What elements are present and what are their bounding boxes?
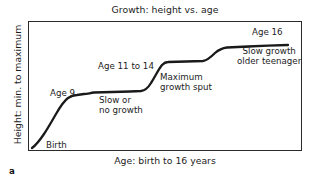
annotation-age-11-to-14: Age 11 to 14 <box>98 61 154 71</box>
figure-letter-label: a <box>9 166 15 176</box>
growth-chart-figure: Growth: height vs. age Height: min. to m… <box>0 0 322 187</box>
annotation-age-16: Age 16 <box>252 27 283 37</box>
annotation-maximum-growth-spurt-line1: Maximum <box>160 72 212 82</box>
annotation-slow-no-growth: Slow or no growth <box>99 95 143 116</box>
chart-title: Growth: height vs. age <box>28 4 302 16</box>
annotation-slow-growth-older-teenager-line1: Slow growth <box>237 46 301 56</box>
annotation-slow-growth-older-teenager-line2: older teenager <box>237 56 301 66</box>
x-axis-label: Age: birth to 16 years <box>28 155 302 167</box>
annotation-age-9: Age 9 <box>50 88 75 98</box>
annotation-slow-no-growth-line2: no growth <box>99 105 143 115</box>
annotation-slow-growth-older-teenager: Slow growth older teenager <box>237 46 301 67</box>
annotation-birth: Birth <box>46 140 67 150</box>
annotation-slow-no-growth-line1: Slow or <box>99 95 143 105</box>
y-axis-label: Height: min. to maximum <box>12 10 23 160</box>
annotation-maximum-growth-spurt-line2: growth sput <box>160 82 212 92</box>
annotation-maximum-growth-spurt: Maximum growth sput <box>160 72 212 93</box>
